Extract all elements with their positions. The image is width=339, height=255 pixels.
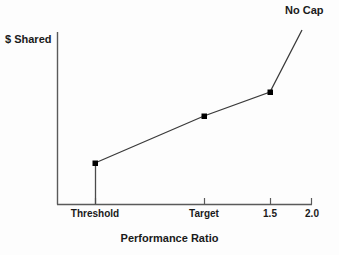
data-point-target xyxy=(202,114,208,120)
x-axis-label: Performance Ratio xyxy=(0,233,339,244)
x-tick-label-threshold: Threshold xyxy=(71,209,119,219)
data-point-1-5 xyxy=(268,90,274,96)
x-tick-label-2-0: 2.0 xyxy=(305,209,319,219)
no-cap-annotation: No Cap xyxy=(285,5,324,16)
y-axis-label: $ Shared xyxy=(5,34,51,45)
x-tick-label-target: Target xyxy=(189,209,219,219)
x-tick-label-1-5: 1.5 xyxy=(263,209,277,219)
payout-curve-line xyxy=(95,30,302,163)
performance-ratio-payout-chart: $ Shared No Cap Threshold Target 1.5 2.0… xyxy=(0,0,339,255)
data-point-threshold xyxy=(93,161,99,167)
